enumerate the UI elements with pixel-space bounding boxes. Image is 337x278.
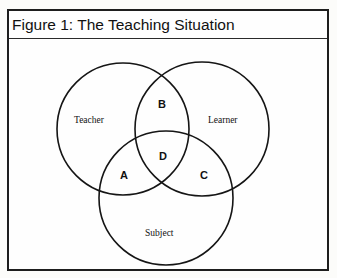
label-learner: Learner (208, 115, 238, 125)
region-d: D (159, 150, 167, 162)
region-b: B (158, 98, 166, 110)
label-teacher: Teacher (74, 115, 105, 125)
venn-diagram: Teacher Learner Subject B D A C (0, 0, 337, 278)
region-c: C (200, 169, 208, 181)
region-a: A (120, 169, 128, 181)
label-subject: Subject (145, 228, 174, 238)
